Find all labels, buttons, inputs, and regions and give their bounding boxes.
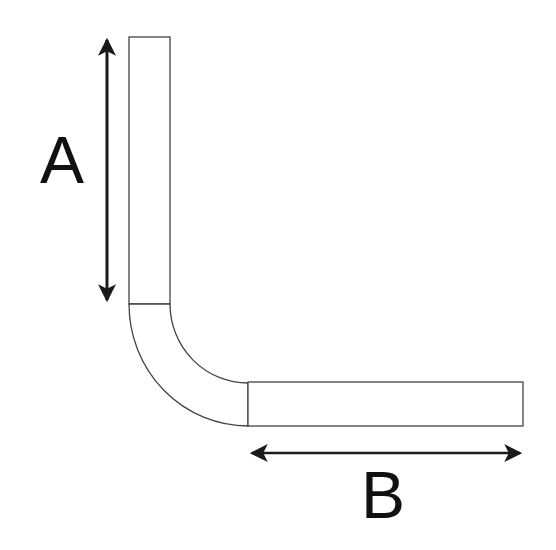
bend-section	[129, 304, 248, 426]
horizontal-leg	[248, 382, 523, 426]
label-b: B	[361, 458, 405, 532]
bent-tube-diagram: A B	[0, 0, 556, 550]
vertical-leg	[129, 37, 170, 304]
label-a: A	[40, 123, 84, 197]
